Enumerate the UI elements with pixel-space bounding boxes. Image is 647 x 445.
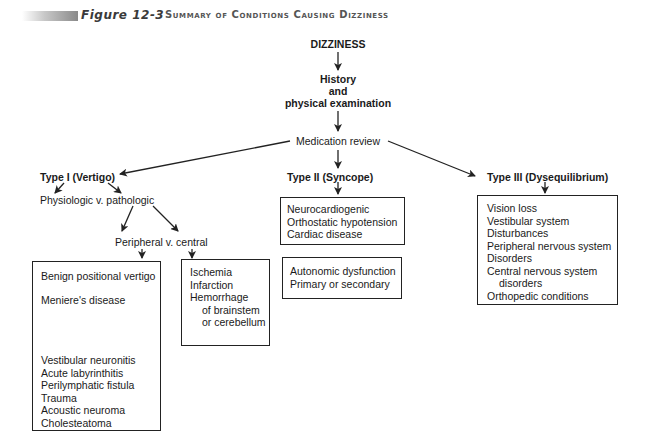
and-line: and (268, 85, 408, 97)
item-trauma: Trauma (41, 392, 160, 405)
node-peripheral-central: Peripheral v. central (115, 236, 208, 248)
arrow-to-type1 (120, 141, 290, 174)
item-acoustic-neuroma: Acoustic neuroma (41, 404, 160, 417)
item-hemorrhage: Hemorrhage (190, 291, 269, 304)
node-type1-vertigo: Type I (Vertigo) (40, 171, 115, 183)
item-ischemia: Ischemia (190, 266, 269, 279)
node-dizziness: DIZZINESS (298, 38, 378, 50)
item-primary-secondary: Primary or secondary (290, 278, 401, 291)
item-cns-disorders: disorders (487, 277, 617, 290)
item-peripheral-nervous-system: Peripheral nervous system (487, 240, 617, 253)
arrow-to-type3 (388, 141, 475, 176)
item-disorders: Disorders (487, 252, 617, 265)
item-benign-positional-vertigo: Benign positional vertigo (41, 270, 160, 283)
box-central-causes: Ischemia Infarction Hemorrhage of brains… (181, 259, 270, 346)
history-line: History (268, 73, 408, 85)
item-disturbances: Disturbances (487, 227, 617, 240)
box-syncope-autonomic: Autonomic dysfunction Primary or seconda… (282, 257, 402, 299)
node-physiologic-pathologic: Physiologic v. pathologic (40, 194, 154, 206)
node-medication-review: Medication review (288, 135, 388, 147)
node-history-exam: History and physical examination (268, 73, 408, 109)
item-neurocardiogenic: Neurocardiogenic (287, 203, 404, 216)
item-orthopedic-conditions: Orthopedic conditions (487, 290, 617, 303)
box-peripheral-causes: Benign positional vertigo Meniere's dise… (32, 261, 161, 431)
physical-exam-line: physical examination (268, 97, 408, 109)
item-of-brainstem: of brainstem (190, 304, 269, 317)
node-type3-dysequilibrium: Type III (Dysequilibrium) (487, 171, 608, 183)
box-dysequilibrium-causes: Vision loss Vestibular system Disturbanc… (477, 195, 618, 305)
item-or-cerebellum: or cerebellum (190, 316, 269, 329)
item-cardiac-disease: Cardiac disease (287, 228, 404, 241)
item-acute-labyrinthitis: Acute labyrinthitis (41, 367, 160, 380)
item-central-nervous-system: Central nervous system (487, 265, 617, 278)
item-autonomic-dysfunction: Autonomic dysfunction (290, 265, 401, 278)
box-syncope-cardiac: Neurocardiogenic Orthostatic hypotension… (280, 197, 405, 245)
item-cholesteatoma: Cholesteatoma (41, 417, 160, 430)
item-perilymphatic-fistula: Perilymphatic fistula (41, 379, 160, 392)
item-vestibular-neuronitis: Vestibular neuronitis (41, 354, 160, 367)
item-vision-loss: Vision loss (487, 202, 617, 215)
item-orthostatic-hypotension: Orthostatic hypotension (287, 216, 404, 229)
item-infarction: Infarction (190, 279, 269, 292)
node-type2-syncope: Type II (Syncope) (287, 171, 373, 183)
item-menieres: Meniere's disease (41, 294, 160, 307)
item-vestibular-system: Vestibular system (487, 215, 617, 228)
